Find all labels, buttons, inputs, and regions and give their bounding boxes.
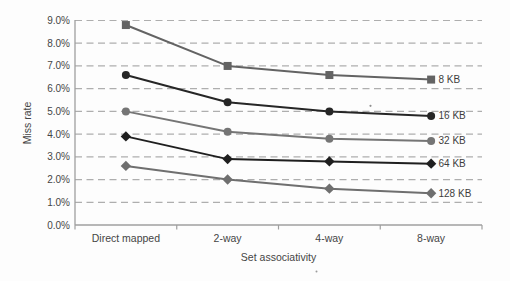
y-axis-tick-label: 2.0% <box>47 174 70 185</box>
series-marker-128-kb <box>426 188 436 198</box>
y-axis-tick-label: 4.0% <box>47 129 70 140</box>
series-8-kb: 8 KB <box>122 21 461 85</box>
series-32-kb: 32 KB <box>122 107 466 146</box>
series-marker-32-kb <box>224 128 232 136</box>
x-axis-tick-label: 2-way <box>214 232 243 244</box>
y-axis-tick-label: 7.0% <box>47 60 70 71</box>
series-label-16-kb: 16 KB <box>439 110 467 121</box>
series-label-128-kb: 128 KB <box>439 188 472 199</box>
series-label-32-kb: 32 KB <box>439 135 467 146</box>
series-marker-32-kb <box>325 135 333 143</box>
series-label-64-kb: 64 KB <box>439 158 467 169</box>
series-marker-16-kb <box>325 107 333 115</box>
x-axis-tick-label: 8-way <box>417 232 446 244</box>
miss-rate-line-chart: 0.0%1.0%2.0%3.0%4.0%5.0%6.0%7.0%8.0%9.0%… <box>0 0 510 281</box>
chart-figure: 0.0%1.0%2.0%3.0%4.0%5.0%6.0%7.0%8.0%9.0%… <box>0 0 510 281</box>
series-marker-16-kb <box>122 71 130 79</box>
y-axis-tick-label: 1.0% <box>47 197 70 208</box>
y-axis-tick-label: 6.0% <box>47 83 70 94</box>
x-axis-tick-label: 4-way <box>315 232 344 244</box>
series-marker-32-kb <box>427 137 435 145</box>
x-axis-title: Set associativity <box>241 251 317 263</box>
series-marker-128-kb <box>222 174 232 184</box>
series-marker-64-kb <box>222 154 232 164</box>
series-line-16-kb <box>126 75 431 116</box>
series-marker-16-kb <box>224 98 232 106</box>
series-label-8-kb: 8 KB <box>439 74 461 85</box>
series-line-32-kb <box>126 111 431 141</box>
x-axis-tick-label: Direct mapped <box>92 232 160 244</box>
scan-artifact <box>316 271 318 273</box>
series-line-8-kb <box>126 25 431 80</box>
series-marker-8-kb <box>427 76 435 84</box>
series-marker-64-kb <box>324 156 334 166</box>
series-marker-128-kb <box>121 161 131 171</box>
series-marker-32-kb <box>122 107 130 115</box>
y-axis-tick-label: 0.0% <box>47 220 70 231</box>
series-marker-64-kb <box>426 158 436 168</box>
y-axis-tick-label: 8.0% <box>47 38 70 49</box>
y-axis-tick-label: 5.0% <box>47 106 70 117</box>
y-axis-tick-label: 9.0% <box>47 15 70 26</box>
series-marker-8-kb <box>325 71 333 79</box>
y-axis-title: Miss rate <box>21 102 33 145</box>
scan-artifact <box>369 105 371 107</box>
series-marker-8-kb <box>122 21 130 29</box>
series-marker-64-kb <box>121 131 131 141</box>
y-axis-tick-label: 3.0% <box>47 151 70 162</box>
series-marker-128-kb <box>324 183 334 193</box>
series-marker-16-kb <box>427 112 435 120</box>
series-marker-8-kb <box>224 62 232 70</box>
